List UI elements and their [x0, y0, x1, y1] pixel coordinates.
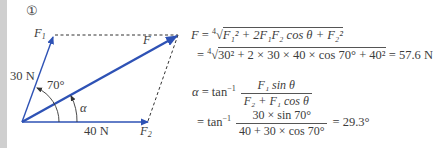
resultant-vector-arrow — [22, 36, 177, 122]
alpha-angle-label: α — [80, 101, 87, 116]
f2-magnitude-label: 40 N — [84, 124, 109, 139]
alpha-angle-arc — [71, 96, 77, 122]
resultant-value: = 4√30² + 2 × 30 × 40 × cos 70° + 40² = … — [197, 47, 433, 63]
resultant-label: F — [143, 33, 151, 48]
f1-label: F1 — [34, 26, 46, 41]
resultant-formula: F = 4√F₁² + 2F₁F₂ cos θ + F₂² — [191, 27, 343, 43]
f2-label: F2 — [140, 124, 152, 139]
dashed-right-side — [148, 35, 178, 121]
f1-magnitude-label: 30 N — [10, 69, 35, 84]
theta-angle-arc — [37, 88, 59, 122]
theta-angle-label: 70° — [47, 78, 65, 93]
alpha-value: = tan−1 30 × sin 70°40 + 30 × cos 70° = … — [197, 108, 370, 139]
alpha-formula: α = tan−1 F₁ sin θF₂ + F₁ cos θ — [192, 78, 314, 109]
